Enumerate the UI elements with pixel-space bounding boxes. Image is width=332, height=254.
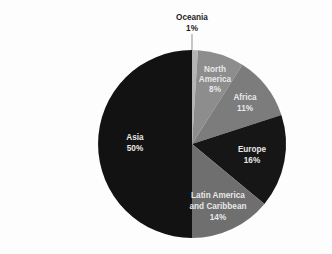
- slice-label-latin-america-and-caribbean: Latin America: [191, 191, 245, 200]
- pie-chart-svg: Oceania1%NorthAmerica8%Africa11%Europe16…: [0, 0, 332, 254]
- pie-chart-figure: Oceania1%NorthAmerica8%Africa11%Europe16…: [0, 0, 332, 254]
- slice-label-north-america: North: [204, 65, 226, 74]
- slice-value-europe: 16%: [244, 156, 261, 165]
- slice-value-north-america: 8%: [209, 85, 222, 94]
- slice-label-oceania: Oceania: [176, 13, 208, 22]
- slice-label-asia: Asia: [126, 133, 144, 142]
- pie-slice-asia[interactable]: [98, 50, 192, 238]
- slice-label-latin-america-and-caribbean-line2: and Caribbean: [190, 202, 247, 211]
- slice-label-africa: Africa: [233, 93, 257, 102]
- slice-value-latin-america-and-caribbean: 14%: [210, 213, 227, 222]
- slice-label-europe: Europe: [238, 145, 267, 154]
- slice-label-north-america-line2: America: [199, 75, 232, 84]
- slice-value-oceania: 1%: [186, 24, 199, 33]
- slice-value-africa: 11%: [237, 104, 254, 113]
- slice-value-asia: 50%: [127, 144, 144, 153]
